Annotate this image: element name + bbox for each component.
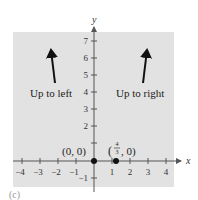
svg-text:−2: −2 — [51, 167, 61, 177]
svg-text:−1: −1 — [69, 167, 79, 177]
x-intercept-point — [113, 158, 119, 164]
svg-text:−1: −1 — [78, 173, 88, 183]
svg-text:2: 2 — [128, 167, 133, 177]
svg-text:5: 5 — [84, 70, 89, 80]
svg-text:4: 4 — [84, 87, 89, 97]
panel-label: (c) — [9, 189, 20, 200]
svg-text:−3: −3 — [33, 167, 43, 177]
svg-text:2: 2 — [84, 121, 89, 131]
svg-text:3: 3 — [146, 167, 151, 177]
y-axis-label: y — [91, 14, 97, 25]
origin-label: (0, 0) — [62, 145, 86, 158]
origin-point — [91, 158, 97, 164]
svg-text:−4: −4 — [15, 167, 25, 177]
up-to-left-label: Up to left — [30, 87, 72, 99]
graph-figure: x y −4 −3 −2 −1 1 2 3 4 7 6 5 4 — [0, 0, 198, 200]
svg-text:1: 1 — [110, 167, 115, 177]
svg-text:, 0): , 0) — [121, 145, 136, 158]
svg-text:(: ( — [108, 144, 112, 158]
svg-text:3: 3 — [84, 104, 89, 114]
svg-text:7: 7 — [84, 36, 89, 46]
svg-text:4: 4 — [116, 141, 119, 147]
svg-text:4: 4 — [164, 167, 169, 177]
svg-text:6: 6 — [84, 53, 89, 63]
svg-text:3: 3 — [116, 149, 119, 155]
up-to-right-label: Up to right — [116, 87, 164, 99]
x-axis-label: x — [185, 155, 191, 166]
